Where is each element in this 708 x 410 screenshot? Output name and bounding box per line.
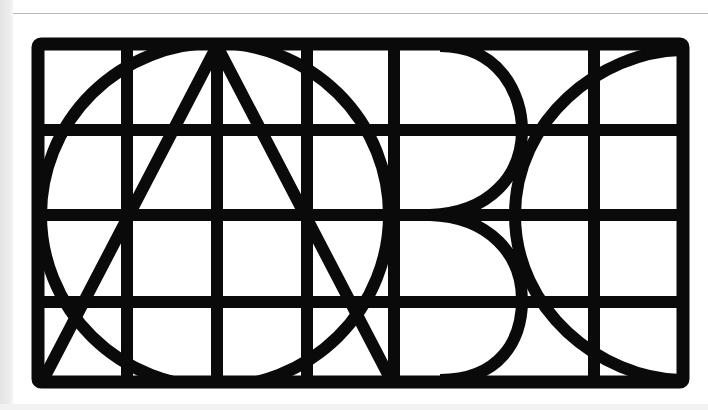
abc-letterform-artwork (0, 0, 708, 410)
